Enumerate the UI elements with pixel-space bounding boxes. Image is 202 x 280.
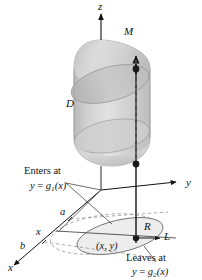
dashed-line-from-a [70,212,168,219]
leaves-eq-sign: = [139,266,145,277]
leaves-eq-lhs: y [132,266,137,277]
point-exit-solid [133,161,140,168]
point-m [133,66,140,73]
z-axis-label: z [98,1,102,13]
interval-a-label: a [60,206,65,217]
enters-equation: y = g1(x) [30,180,66,193]
point-xy-label: (x, y) [96,240,118,251]
line-l-label: L [164,231,170,243]
y-axis [101,182,176,190]
region-r-label: R [144,221,151,233]
leaves-caption: Leaves at [126,252,166,263]
leaves-eq-arg: (x) [157,266,169,277]
figure-canvas: z M D y x Enters at y = g1(x) a x b R (x… [0,0,202,280]
solid-d [67,40,153,166]
enters-eq-lhs: y [30,180,35,191]
solid-d-label: D [66,98,74,110]
x-tick-label: x [36,226,41,237]
y-axis-label: y [186,177,191,189]
interval-b-label: b [20,240,25,251]
leader-enters-upper [66,183,101,190]
diagram-svg [0,0,202,280]
enters-caption: Enters at [24,165,61,176]
x-axis-label: x [8,262,13,274]
enters-eq-arg: (x) [55,180,67,191]
point-m-label: M [124,26,133,38]
enters-eq-sign: = [37,180,43,191]
leaves-equation: y = g2(x) [132,266,168,279]
